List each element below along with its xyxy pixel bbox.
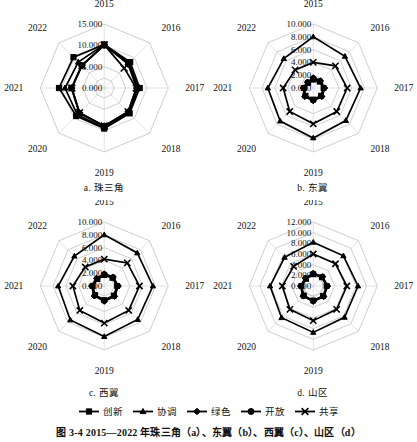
x-marker [121, 65, 128, 72]
tick-label: 6.000 [291, 249, 312, 259]
circle-marker [310, 298, 316, 304]
radar-chart-a: 0.0005.00010.00015.000201520162017201820… [0, 0, 209, 200]
category-label: 2016 [370, 221, 389, 231]
category-label: 2015 [303, 0, 322, 9]
category-label: 2016 [162, 23, 181, 33]
x-marker [294, 406, 316, 419]
circle-marker [321, 85, 327, 91]
circle-marker [324, 283, 330, 289]
legend-label: 绿色 [210, 408, 231, 418]
tick-label: 0.000 [291, 83, 312, 93]
panel-b-subcaption: b. 东翼 [209, 180, 417, 194]
circle-marker [310, 271, 316, 277]
panel-c: 0.0002.0004.0006.0008.00010.000201520162… [0, 200, 209, 400]
circle-marker [319, 274, 325, 280]
radar-chart-grid: 0.0005.00010.00015.000201520162017201820… [0, 0, 417, 400]
category-label: 2022 [28, 23, 47, 33]
circle-marker [115, 283, 121, 289]
category-label: 2016 [162, 221, 181, 231]
tick-label: 0.000 [291, 281, 312, 291]
triangle-marker [310, 34, 315, 39]
category-label: 2022 [236, 23, 255, 33]
category-label: 2018 [162, 342, 181, 352]
category-label: 2017 [394, 83, 413, 93]
tick-label: 10.000 [78, 40, 103, 50]
circle-marker [248, 409, 254, 415]
radar-chart-d: 0.0002.0004.0006.0008.00010.00012.000201… [209, 200, 417, 400]
tick-label: 8.000 [291, 32, 312, 42]
category-label: 2021 [4, 83, 23, 93]
tick-label: 8.000 [82, 230, 103, 240]
tick-label: 0.000 [82, 281, 103, 291]
category-label: 2021 [213, 281, 232, 291]
tick-label: 4.000 [291, 57, 312, 67]
tick-label: 0.000 [82, 83, 103, 93]
tick-label: 12.000 [286, 217, 311, 227]
x-marker [333, 108, 339, 114]
category-label: 2018 [162, 144, 181, 154]
category-label: 2022 [28, 221, 47, 231]
category-label: 2018 [370, 144, 389, 154]
square-marker [78, 406, 100, 419]
radar-chart-c: 0.0002.0004.0006.0008.00010.000201520162… [0, 200, 209, 400]
tick-label: 10.000 [78, 217, 103, 227]
category-label: 2015 [95, 200, 114, 207]
legend-item-绿色: 绿色 [186, 406, 231, 419]
category-label: 2016 [370, 23, 389, 33]
category-label: 2017 [185, 83, 204, 93]
legend-label: 共享 [318, 408, 339, 418]
figure-page: 0.0005.00010.00015.000201520162017201820… [0, 0, 417, 442]
diamond-marker [194, 408, 201, 415]
square-marker [86, 409, 91, 414]
tick-label: 10.000 [286, 228, 311, 238]
tick-label: 15.000 [78, 19, 103, 29]
category-label: 2019 [95, 168, 114, 178]
tick-label: 6.000 [82, 243, 103, 253]
tick-label: 4.000 [82, 255, 103, 265]
panel-c-subcaption: c. 西翼 [0, 385, 209, 399]
category-label: 2020 [236, 144, 255, 154]
category-label: 2018 [370, 342, 389, 352]
panel-b: 0.0002.0004.0006.0008.00010.000201520162… [209, 0, 417, 200]
circle-marker [317, 78, 323, 84]
category-label: 2015 [95, 0, 114, 9]
category-label: 2017 [394, 281, 413, 291]
x-marker [332, 261, 338, 267]
panel-d: 0.0002.0004.0006.0008.00010.00012.000201… [209, 200, 417, 400]
category-label: 2019 [95, 366, 114, 376]
square-marker [56, 85, 61, 90]
tick-label: 8.000 [291, 238, 312, 248]
circle-marker [92, 293, 98, 299]
circle-marker [110, 275, 116, 281]
square-marker [71, 55, 76, 60]
circle-marker [310, 76, 316, 82]
triangle-marker [132, 406, 154, 419]
triangle-marker [310, 330, 315, 335]
x-marker [126, 307, 132, 313]
legend-item-协调: 协调 [132, 406, 177, 419]
category-label: 2021 [4, 281, 23, 291]
tick-label: 10.000 [286, 19, 311, 29]
category-label: 2017 [185, 281, 204, 291]
triangle-marker [310, 240, 315, 245]
category-label: 2022 [236, 221, 255, 231]
tick-label: 5.000 [82, 62, 103, 72]
triangle-marker [102, 232, 107, 237]
circle-marker [101, 272, 107, 278]
category-label: 2020 [236, 342, 255, 352]
category-label: 2019 [303, 366, 322, 376]
circle-marker [310, 97, 316, 103]
legend-item-共享: 共享 [294, 406, 339, 419]
triangle-marker [140, 409, 146, 414]
circle-marker [320, 293, 326, 299]
circle-marker [101, 298, 107, 304]
chart-legend: 创新协调绿色开放共享 [0, 404, 417, 421]
triangle-marker [310, 135, 315, 140]
legend-item-创新: 创新 [78, 406, 123, 419]
diamond-marker [186, 406, 208, 419]
panel-a: 0.0005.00010.00015.000201520162017201820… [0, 0, 209, 200]
panel-a-subcaption: a. 珠三角 [0, 180, 209, 194]
radar-chart-b: 0.0002.0004.0006.0008.00010.000201520162… [209, 0, 417, 200]
panel-d-subcaption: d. 山区 [209, 385, 417, 399]
category-label: 2015 [303, 200, 322, 207]
